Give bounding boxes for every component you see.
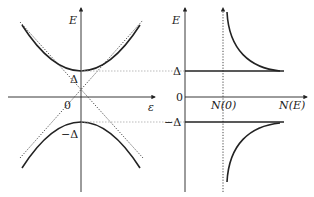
upper-dos-divergence [227, 12, 280, 71]
right-gap-lower-label: −Δ [164, 116, 181, 129]
asymptote-positive [20, 20, 143, 158]
right-panel-dos: E Δ 0 −Δ N(0) N(E) [164, 8, 307, 192]
left-gap-lower-label: −Δ [61, 128, 78, 141]
asymptote-negative [20, 22, 143, 158]
left-gap-upper-label: Δ [70, 73, 78, 86]
lower-dos-divergence [227, 123, 280, 182]
right-y-axis-label: E [171, 14, 180, 27]
normal-dos-label: N(0) [210, 99, 236, 112]
bcs-dispersion-and-dos-diagram: E ε 0 Δ −Δ E Δ 0 −Δ N(0) N(E) [0, 0, 314, 197]
left-x-axis-label: ε [148, 101, 154, 114]
right-zero-label: 0 [176, 91, 183, 104]
right-x-axis-label: N(E) [278, 99, 305, 112]
left-origin-label: 0 [64, 99, 71, 112]
left-panel-dispersion: E ε 0 Δ −Δ [8, 8, 185, 192]
right-gap-upper-label: Δ [173, 65, 181, 78]
left-y-axis-label: E [68, 14, 77, 27]
